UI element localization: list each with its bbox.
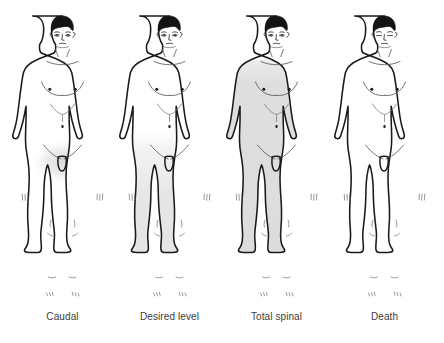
body-diagram-total-spinal — [221, 4, 332, 304]
body-diagram-death — [329, 4, 440, 304]
shading-region-total-spinal — [221, 54, 332, 304]
figure-caption-total-spinal: Total spinal — [251, 311, 302, 323]
figure-column-caudal: Caudal — [7, 0, 118, 343]
shading-region-caudal — [33, 140, 93, 184]
figure-column-death: Death — [329, 0, 440, 343]
body-diagram-desired-level — [114, 4, 225, 304]
shading-region-desired-level — [114, 122, 225, 304]
figure-caption-desired-level: Desired level — [140, 311, 199, 323]
figure-caption-death: Death — [371, 311, 398, 323]
figure-column-total-spinal: Total spinal — [221, 0, 332, 343]
figure-caption-caudal: Caudal — [46, 311, 78, 323]
spinal-block-levels-figure-panel: Caudal — [0, 0, 444, 343]
figure-column-desired-level: Desired level — [114, 0, 225, 343]
body-diagram-caudal — [7, 4, 118, 304]
